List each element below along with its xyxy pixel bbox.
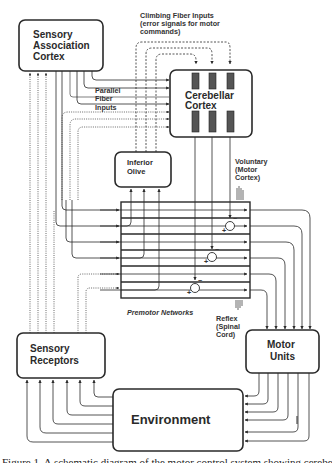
sensory-receptors-label: Sensory Receptors [30, 343, 79, 366]
motor-units-label: Motor Units [267, 339, 298, 362]
svg-text:+: + [187, 288, 191, 297]
sensory-receptor-to-cortex-paths [30, 73, 119, 333]
voluntary-input-tick-icon [237, 186, 243, 200]
svg-text:+: + [204, 257, 208, 266]
svg-text:−: − [233, 214, 237, 223]
svg-text:+: + [222, 226, 226, 235]
voluntary-label: Voluntary (Motor Cortex) [235, 157, 270, 182]
motor-control-diagram: Sensory Association Cortex Climbing Fibe… [0, 0, 332, 463]
reflex-input-tick-icon [236, 300, 242, 310]
motor-to-environment-paths [245, 373, 309, 441]
sensory-receptors-node: Sensory Receptors [17, 333, 105, 378]
premotor-to-motor-paths [250, 210, 310, 329]
climbing-fiber-label: Climbing Fiber Inputs (error signals for… [140, 11, 222, 36]
figure-caption: Figure 1. A schematic diagram of the mot… [2, 454, 332, 463]
reflex-label: Reflex (Spinal Cord) [216, 314, 242, 339]
parallel-fiber-label: Parallel Fiber Inputs [95, 86, 123, 112]
motor-units-node: Motor Units [246, 330, 319, 373]
environment-label: Environment [131, 412, 211, 427]
environment-node: Environment [113, 389, 243, 451]
inferior-olive-node: Inferior Olive [115, 152, 171, 187]
sensory-association-cortex-node: Sensory Association Cortex [19, 20, 103, 71]
cerebellar-cortex-node: Cerebellar Cortex [170, 70, 252, 137]
environment-to-receptors-paths [27, 380, 113, 442]
premotor-networks-label: Premotor Networks [127, 308, 193, 317]
svg-text:−: − [215, 245, 219, 254]
svg-text:−: − [198, 276, 202, 285]
